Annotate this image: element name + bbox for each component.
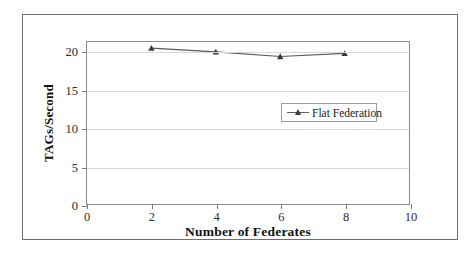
x-axis-tick xyxy=(217,204,218,209)
figure-canvas: TAGs/Second 051015200246810 Number of Fe… xyxy=(0,0,476,254)
x-axis-tick-label: 0 xyxy=(84,211,90,224)
x-axis-title: Number of Federates xyxy=(86,224,410,240)
x-axis-tick xyxy=(411,204,412,209)
y-axis-tick xyxy=(82,129,87,130)
gridline-y xyxy=(87,52,409,53)
y-axis-tick xyxy=(82,91,87,92)
y-axis-tick-label: 15 xyxy=(66,84,79,97)
x-axis-tick xyxy=(152,204,153,209)
y-axis-tick-label: 5 xyxy=(72,161,78,174)
x-axis-tick-label: 4 xyxy=(213,211,219,224)
gridline-y xyxy=(87,91,409,92)
legend-series-marker-icon xyxy=(287,108,309,118)
x-axis-tick-label: 2 xyxy=(149,211,155,224)
y-axis-tick-label: 20 xyxy=(66,46,79,59)
x-axis-tick-label: 10 xyxy=(405,211,418,224)
y-axis-tick xyxy=(82,52,87,53)
y-axis-tick-label: 10 xyxy=(66,123,79,136)
legend[interactable]: Flat Federation xyxy=(281,103,377,122)
y-axis-title: TAGs/Second xyxy=(40,41,58,205)
y-axis-tick-label: 0 xyxy=(72,200,78,213)
x-axis-tick xyxy=(346,204,347,209)
x-axis-tick-label: 6 xyxy=(278,211,284,224)
y-axis-tick xyxy=(82,168,87,169)
legend-entry-label: Flat Federation xyxy=(312,107,382,119)
series-layer xyxy=(87,42,409,204)
y-axis-title-label: TAGs/Second xyxy=(41,84,57,162)
gridline-y xyxy=(87,129,409,130)
x-axis-tick xyxy=(281,204,282,209)
x-axis-tick-label: 8 xyxy=(343,211,349,224)
x-axis-tick xyxy=(87,204,88,209)
gridline-y xyxy=(87,168,409,169)
plot-area: 051015200246810 xyxy=(86,41,410,205)
